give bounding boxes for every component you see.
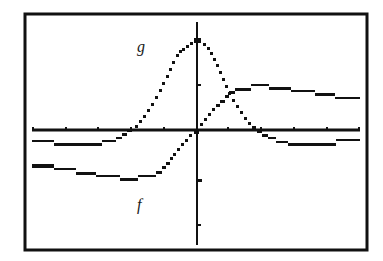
calculator-graph-screen: g f <box>0 0 383 261</box>
label-f: f <box>137 196 144 214</box>
label-g: g <box>137 38 145 56</box>
